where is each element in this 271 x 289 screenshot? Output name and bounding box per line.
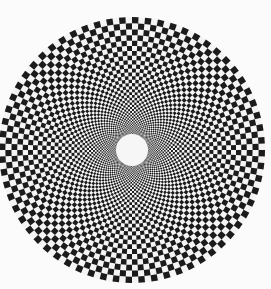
radial-checkerboard <box>0 0 271 289</box>
center-white-disk <box>116 134 148 166</box>
illusion-canvas <box>0 0 271 289</box>
